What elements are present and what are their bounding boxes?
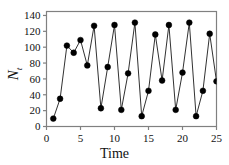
x-axis-tick-label: 25 bbox=[211, 132, 223, 144]
data-point bbox=[166, 22, 172, 28]
y-axis-tick-label: 20 bbox=[30, 104, 42, 116]
data-point bbox=[91, 23, 97, 29]
y-axis-tick-label: 140 bbox=[24, 9, 41, 21]
y-axis-tick-label: 80 bbox=[30, 57, 42, 69]
data-point bbox=[78, 37, 84, 43]
x-axis-tick-label: 15 bbox=[143, 132, 155, 144]
data-point bbox=[214, 78, 220, 84]
data-point bbox=[200, 88, 206, 94]
data-point bbox=[173, 107, 179, 113]
data-point bbox=[207, 31, 213, 37]
y-axis-label: Nt bbox=[4, 54, 26, 94]
data-point bbox=[98, 105, 104, 111]
data-point bbox=[105, 64, 111, 70]
data-point bbox=[180, 70, 186, 76]
data-point bbox=[139, 113, 145, 119]
data-point bbox=[57, 96, 63, 102]
chart-canvas: 0204060801001201400510152025 bbox=[0, 0, 229, 165]
x-axis-tick-label: 5 bbox=[78, 132, 84, 144]
y-axis-tick-label: 100 bbox=[24, 41, 41, 53]
chart-figure: 0204060801001201400510152025 Nt Time bbox=[0, 0, 229, 165]
data-point bbox=[84, 63, 90, 69]
data-point bbox=[193, 113, 199, 119]
data-point bbox=[132, 20, 138, 26]
data-point bbox=[152, 32, 158, 38]
y-axis-label-base: N bbox=[5, 70, 21, 80]
data-point bbox=[64, 43, 70, 49]
y-axis-tick-label: 120 bbox=[24, 25, 41, 37]
x-axis-tick-label: 0 bbox=[44, 132, 50, 144]
data-point bbox=[118, 107, 124, 113]
plot-frame bbox=[47, 12, 217, 127]
y-axis-label-subscript: t bbox=[14, 68, 24, 71]
data-point bbox=[159, 78, 165, 84]
data-point bbox=[125, 70, 131, 76]
x-axis-tick-label: 10 bbox=[109, 132, 121, 144]
data-point bbox=[186, 20, 192, 26]
y-axis-tick-label: 0 bbox=[35, 120, 41, 132]
data-point bbox=[146, 88, 152, 94]
data-point bbox=[71, 50, 77, 56]
data-point bbox=[50, 116, 56, 122]
data-point bbox=[112, 22, 118, 28]
y-axis-tick-label: 60 bbox=[30, 73, 42, 85]
x-axis-tick-label: 20 bbox=[177, 132, 189, 144]
y-axis-tick-label: 40 bbox=[30, 89, 42, 101]
x-axis-label: Time bbox=[0, 146, 229, 162]
